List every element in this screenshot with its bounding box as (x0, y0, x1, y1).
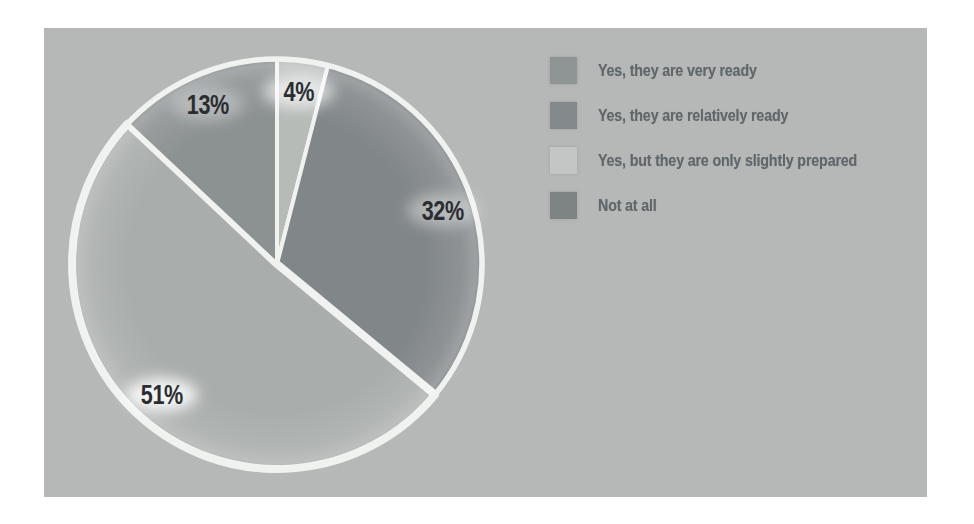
legend-label-not-at-all: Not at all (598, 196, 657, 216)
legend-swatch-relatively-ready (550, 102, 577, 129)
chart-panel: 4%32%51%13% Yes, they are very ready Yes… (44, 28, 927, 497)
legend-label-relatively-ready: Yes, they are relatively ready (598, 106, 788, 126)
legend-label-very-ready: Yes, they are very ready (598, 61, 757, 81)
pie-percent-label-3: 51% (141, 380, 184, 410)
legend: Yes, they are very ready Yes, they are r… (550, 57, 910, 237)
pie-percent-label-4: 13% (187, 90, 230, 120)
pie-label-2: 32% (422, 196, 465, 226)
legend-swatch-not-at-all (550, 192, 577, 219)
pie-percent-label-2: 32% (422, 196, 465, 226)
legend-item-not-at-all: Not at all (550, 192, 910, 219)
pie-label-1: 4% (284, 77, 315, 107)
legend-item-slightly-prepared: Yes, but they are only slightly prepared (550, 147, 910, 174)
pie-label-3: 51% (141, 380, 184, 410)
legend-item-relatively-ready: Yes, they are relatively ready (550, 102, 910, 129)
page: 4%32%51%13% Yes, they are very ready Yes… (0, 0, 974, 524)
pie-label-4: 13% (187, 90, 230, 120)
legend-swatch-very-ready (550, 57, 577, 84)
legend-label-slightly-prepared: Yes, but they are only slightly prepared (598, 151, 857, 171)
pie-percent-label-1: 4% (284, 77, 315, 107)
legend-swatch-slightly-prepared (550, 147, 577, 174)
legend-item-very-ready: Yes, they are very ready (550, 57, 910, 84)
